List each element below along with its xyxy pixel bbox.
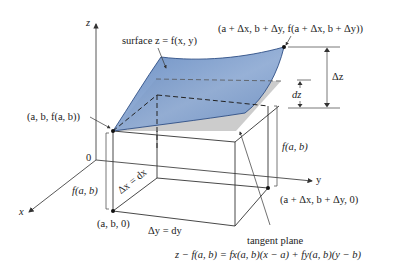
delta-y-label: Δy = dy bbox=[148, 226, 182, 237]
tangent-plane-equation: z − f(a, b) = fx(a, b)(x − a) + fy(a, b)… bbox=[175, 250, 361, 261]
point-top-right-label: (a + Δx, b + Δy, f(a + Δx, b + Δy)) bbox=[218, 24, 363, 35]
differential-diagram: z x y 0 surface z = f(x, y) (a, b, f(a, … bbox=[0, 0, 393, 267]
origin-label: 0 bbox=[86, 153, 91, 164]
z-axis-label: z bbox=[86, 18, 90, 29]
height-right-label: f(a, b) bbox=[282, 142, 308, 153]
tangent-plane-label: tangent plane bbox=[247, 236, 303, 247]
height-left-label: f(a, b) bbox=[72, 186, 98, 197]
point-top-left-label: (a, b, f(a, b)) bbox=[27, 112, 80, 123]
surface-label: surface z = f(x, y) bbox=[122, 36, 197, 47]
point-base-right-label: (a + Δx, b + Δy, 0) bbox=[280, 195, 358, 206]
surface-patch bbox=[113, 47, 284, 131]
y-axis-label: y bbox=[316, 175, 321, 186]
point-base-left-label: (a, b, 0) bbox=[97, 219, 130, 230]
delta-z-label: Δz bbox=[332, 72, 343, 83]
dz-label: dz bbox=[292, 90, 301, 101]
x-axis-label: x bbox=[19, 207, 24, 218]
